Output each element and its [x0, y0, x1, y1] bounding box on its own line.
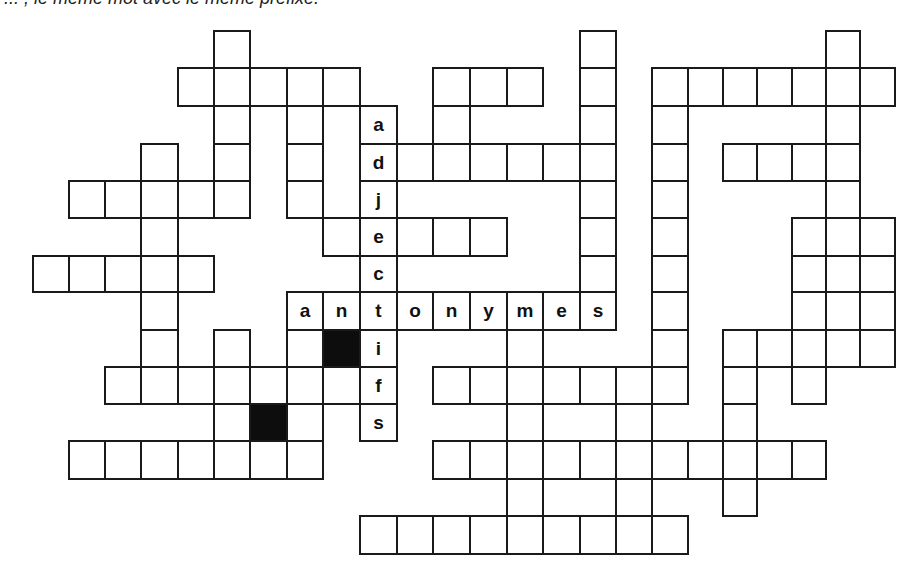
crossword-cell[interactable]: [140, 440, 179, 480]
crossword-cell[interactable]: [859, 217, 896, 257]
crossword-cell[interactable]: [140, 255, 179, 293]
crossword-cell[interactable]: [859, 255, 896, 293]
crossword-cell[interactable]: [579, 217, 617, 257]
crossword-cell[interactable]: [579, 515, 617, 555]
crossword-cell[interactable]: [506, 478, 544, 517]
crossword-cell[interactable]: [542, 143, 581, 182]
crossword-cell[interactable]: [32, 255, 70, 293]
crossword-cell[interactable]: [396, 217, 434, 257]
crossword-cell[interactable]: [506, 329, 544, 368]
crossword-cell[interactable]: [825, 105, 861, 145]
crossword-cell[interactable]: [687, 67, 724, 107]
crossword-cell[interactable]: [432, 515, 471, 555]
crossword-cell[interactable]: [469, 143, 508, 182]
crossword-cell[interactable]: [791, 329, 827, 368]
crossword-cell[interactable]: [579, 30, 617, 69]
crossword-cell[interactable]: [213, 67, 251, 107]
crossword-cell[interactable]: [286, 366, 324, 405]
crossword-cell[interactable]: [432, 67, 471, 107]
crossword-cell[interactable]: [825, 291, 861, 331]
crossword-cell[interactable]: [579, 255, 617, 293]
crossword-cell[interactable]: [687, 440, 724, 480]
crossword-cell[interactable]: [791, 67, 827, 107]
crossword-cell[interactable]: [506, 440, 544, 480]
crossword-cell[interactable]: [615, 440, 653, 480]
crossword-cell[interactable]: [756, 329, 793, 368]
crossword-cell[interactable]: [579, 180, 617, 219]
crossword-cell[interactable]: [322, 366, 361, 405]
crossword-cell[interactable]: [542, 440, 581, 480]
crossword-cell[interactable]: [651, 291, 689, 331]
crossword-cell[interactable]: [68, 440, 106, 480]
crossword-cell[interactable]: [791, 217, 827, 257]
crossword-cell[interactable]: [651, 255, 689, 293]
crossword-cell[interactable]: [651, 329, 689, 368]
crossword-cell[interactable]: [859, 329, 896, 368]
crossword-cell[interactable]: [615, 515, 653, 555]
crossword-cell[interactable]: [542, 515, 581, 555]
crossword-cell[interactable]: [615, 478, 653, 517]
crossword-cell[interactable]: [825, 180, 861, 219]
crossword-cell[interactable]: [140, 329, 179, 368]
crossword-cell[interactable]: [722, 478, 758, 517]
crossword-cell[interactable]: [756, 143, 793, 182]
crossword-cell[interactable]: [177, 180, 215, 219]
crossword-cell[interactable]: [249, 366, 288, 405]
crossword-cell[interactable]: [825, 329, 861, 368]
crossword-cell[interactable]: [469, 366, 508, 405]
crossword-cell[interactable]: [396, 143, 434, 182]
crossword-cell[interactable]: [432, 105, 471, 145]
crossword-cell[interactable]: [791, 255, 827, 293]
crossword-cell[interactable]: [651, 515, 689, 555]
crossword-cell[interactable]: [651, 217, 689, 257]
crossword-cell[interactable]: [469, 217, 508, 257]
crossword-cell[interactable]: [579, 67, 617, 107]
crossword-cell[interactable]: [469, 440, 508, 480]
crossword-cell[interactable]: [140, 180, 179, 219]
crossword-cell[interactable]: [791, 366, 827, 405]
crossword-cell[interactable]: [213, 403, 251, 442]
crossword-cell[interactable]: [579, 105, 617, 145]
crossword-cell[interactable]: [249, 440, 288, 480]
crossword-cell[interactable]: [249, 67, 288, 107]
crossword-cell[interactable]: [286, 403, 324, 442]
crossword-cell[interactable]: [506, 403, 544, 442]
crossword-cell[interactable]: [859, 67, 896, 107]
crossword-cell[interactable]: [286, 143, 324, 182]
crossword-cell[interactable]: [506, 67, 544, 107]
crossword-cell[interactable]: [104, 180, 142, 219]
crossword-cell[interactable]: [651, 67, 689, 107]
crossword-cell[interactable]: [104, 366, 142, 405]
crossword-cell[interactable]: [469, 67, 508, 107]
crossword-cell[interactable]: [104, 440, 142, 480]
crossword-cell[interactable]: [506, 366, 544, 405]
crossword-cell[interactable]: [213, 105, 251, 145]
crossword-cell[interactable]: [322, 67, 361, 107]
crossword-cell[interactable]: [542, 366, 581, 405]
crossword-cell[interactable]: [177, 255, 215, 293]
crossword-cell[interactable]: [722, 440, 758, 480]
crossword-cell[interactable]: [579, 440, 617, 480]
crossword-cell[interactable]: [104, 255, 142, 293]
crossword-cell[interactable]: [791, 291, 827, 331]
crossword-cell[interactable]: [68, 255, 106, 293]
crossword-cell[interactable]: [579, 143, 617, 182]
crossword-cell[interactable]: [615, 403, 653, 442]
crossword-cell[interactable]: [432, 366, 471, 405]
crossword-cell[interactable]: [469, 515, 508, 555]
crossword-cell[interactable]: [825, 255, 861, 293]
crossword-cell[interactable]: [825, 143, 861, 182]
crossword-cell[interactable]: [359, 515, 398, 555]
crossword-cell[interactable]: [396, 515, 434, 555]
crossword-cell[interactable]: [722, 143, 758, 182]
crossword-cell[interactable]: [213, 143, 251, 182]
crossword-cell[interactable]: [432, 440, 471, 480]
crossword-cell[interactable]: [651, 366, 689, 405]
crossword-cell[interactable]: [213, 440, 251, 480]
crossword-cell[interactable]: [722, 67, 758, 107]
crossword-cell[interactable]: [140, 143, 179, 182]
crossword-cell[interactable]: [579, 366, 617, 405]
crossword-cell[interactable]: [615, 366, 653, 405]
crossword-cell[interactable]: [177, 440, 215, 480]
crossword-cell[interactable]: [506, 143, 544, 182]
